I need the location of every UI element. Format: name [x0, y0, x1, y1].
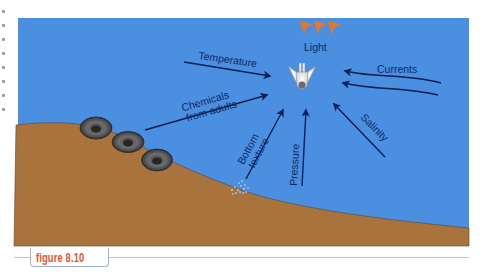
larval-settlement-diagram: Light Temperature Chemicals from adults … [0, 0, 481, 273]
label-pressure: Pressure [287, 143, 301, 186]
figure-caption-text: figure 8.10 [36, 249, 84, 266]
label-light: Light [304, 41, 327, 53]
label-currents: Currents [377, 63, 417, 75]
figure-caption: figure 8.10 [30, 248, 109, 267]
